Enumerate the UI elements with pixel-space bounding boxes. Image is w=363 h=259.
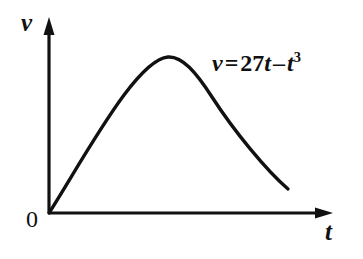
equation-equals: = xyxy=(223,50,241,76)
plot-canvas xyxy=(0,0,363,259)
equation-coefficient: 27 xyxy=(240,50,264,76)
equation-annotation: v=27t–t3 xyxy=(212,50,301,76)
velocity-curve xyxy=(49,57,288,213)
equation-cubic-var: t xyxy=(287,50,294,76)
equation-linear-var: t xyxy=(264,50,271,76)
equation-lhs: v xyxy=(212,50,223,76)
velocity-time-figure: v t 0 v=27t–t3 xyxy=(0,0,363,259)
equation-exponent: 3 xyxy=(294,49,301,65)
t-axis-label: t xyxy=(325,219,332,244)
origin-label: 0 xyxy=(26,207,38,231)
t-axis-arrow-icon xyxy=(315,208,333,219)
v-axis-label: v xyxy=(21,10,32,35)
v-axis-arrow-icon xyxy=(44,17,55,35)
equation-minus: – xyxy=(271,50,287,76)
